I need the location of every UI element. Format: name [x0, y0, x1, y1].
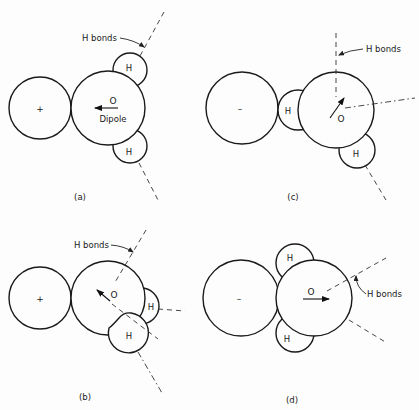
- hydrogen-label: H: [287, 253, 293, 263]
- hydrogen-label: H: [148, 302, 154, 312]
- h-bond-line: [158, 309, 185, 311]
- panel-a: + H H O Dipole H bonds (a): [9, 12, 164, 202]
- h-bonds-label: H bonds: [82, 33, 117, 43]
- panel-caption: (c): [287, 192, 298, 202]
- dipole-label: Dipole: [99, 114, 126, 124]
- hydrogen-label: H: [126, 147, 132, 157]
- h-bond-line: [349, 320, 387, 343]
- oxygen-label: O: [109, 96, 116, 106]
- hydrogen-label: H: [126, 63, 132, 73]
- panel-caption: (b): [79, 392, 91, 402]
- hydration-diagram: + H H O Dipole H bonds (a) – H H O H bon…: [0, 0, 419, 410]
- hydrogen-label: H: [126, 331, 132, 341]
- h-bond-line: [140, 12, 164, 56]
- h-bonds-leader: [120, 38, 144, 47]
- panel-c: – H H O H bonds (c): [206, 33, 415, 202]
- h-bonds-leader: [356, 276, 366, 294]
- h-bonds-label: H bonds: [366, 44, 401, 54]
- h-bond-line: [365, 165, 386, 200]
- oxygen-label: O: [337, 114, 344, 124]
- ion-charge-label: –: [238, 104, 243, 114]
- h-bond-line: [139, 163, 158, 200]
- oxygen-label: O: [307, 287, 314, 297]
- h-bonds-label: H bonds: [74, 240, 109, 250]
- h-bonds-label: H bonds: [367, 289, 402, 299]
- hydrogen-label: H: [285, 106, 291, 116]
- oxygen-atom: [276, 260, 352, 336]
- hydrogen-label: H: [353, 149, 359, 159]
- ion-charge-label: +: [36, 104, 44, 114]
- h-bonds-leader: [111, 245, 133, 252]
- h-bond-line: [138, 352, 162, 393]
- hydrogen-label: H: [284, 334, 290, 344]
- panel-caption: (d): [286, 395, 298, 405]
- panel-b: + H H O H bonds (b): [9, 230, 185, 402]
- panel-d: – H H O H bonds (d): [203, 244, 402, 405]
- ion-charge-label: +: [36, 294, 44, 304]
- h-bonds-leader: [339, 49, 363, 55]
- oxygen-label: O: [110, 290, 117, 300]
- panel-caption: (a): [74, 192, 86, 202]
- ion-charge-label: –: [237, 294, 242, 304]
